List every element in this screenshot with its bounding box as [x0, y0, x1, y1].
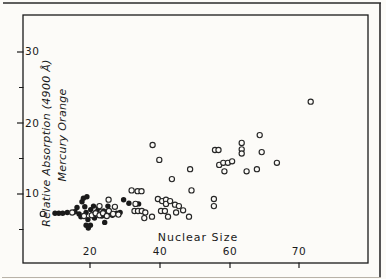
data-point-open: [181, 208, 186, 213]
data-point-filled: [84, 194, 89, 199]
y-axis-title-line2: Mercury Orange: [56, 88, 69, 181]
data-point-open: [211, 196, 216, 201]
data-point-open: [81, 213, 86, 218]
data-point-filled: [82, 204, 87, 209]
x-tick-label-20: 20: [78, 245, 102, 257]
data-point-open: [129, 188, 134, 193]
data-point-open: [142, 216, 147, 221]
data-point-open: [165, 214, 170, 219]
data-point-open: [106, 197, 111, 202]
data-point-open: [257, 133, 262, 138]
data-point-filled: [126, 201, 131, 206]
data-point-open: [149, 214, 154, 219]
data-point-open: [70, 210, 75, 215]
data-point-open: [169, 177, 174, 182]
data-point-open: [139, 189, 144, 194]
data-point-filled: [102, 220, 107, 225]
data-point-open: [189, 188, 194, 193]
data-point-open: [254, 167, 259, 172]
data-point-open: [133, 201, 138, 206]
data-point-open: [116, 212, 121, 217]
plot-frame: [23, 15, 368, 263]
data-point-open: [150, 142, 155, 147]
data-point-open: [111, 211, 116, 216]
x-tick-label-70: 70: [287, 245, 311, 257]
scatter-figure: 30 20 10 20 40 60 70 Nuclear Size Relati…: [0, 0, 386, 279]
data-point-open: [222, 169, 227, 174]
data-point-open: [186, 214, 191, 219]
data-point-open: [104, 213, 109, 218]
data-point-open: [188, 167, 193, 172]
data-point-open: [244, 169, 249, 174]
data-point-filled: [74, 205, 79, 210]
data-point-open: [176, 204, 181, 209]
data-point-open: [97, 204, 102, 209]
data-point-filled: [91, 203, 96, 208]
x-axis-title: Nuclear Size: [158, 231, 238, 244]
x-tick-label-60: 60: [218, 245, 242, 257]
data-point-open: [157, 157, 162, 162]
data-point-open: [239, 151, 244, 156]
y-tick-label-30: 30: [25, 45, 45, 57]
data-point-open: [230, 159, 235, 164]
data-point-open: [168, 199, 173, 204]
data-point-filled: [121, 197, 126, 202]
data-point-filled: [88, 223, 93, 228]
data-point-open: [216, 147, 221, 152]
data-point-open: [274, 160, 279, 165]
data-point-open: [211, 204, 216, 209]
data-point-open: [143, 210, 148, 215]
data-point-open: [174, 210, 179, 215]
data-point-open: [162, 208, 167, 213]
data-point-open: [239, 140, 244, 145]
y-axis-title-line1: Relative Absorption (4900 Å): [40, 59, 53, 226]
data-point-filled: [60, 211, 65, 216]
x-tick-label-40: 40: [148, 245, 172, 257]
data-point-open: [308, 99, 313, 104]
data-point-open: [259, 150, 264, 155]
data-point-open: [112, 204, 117, 209]
